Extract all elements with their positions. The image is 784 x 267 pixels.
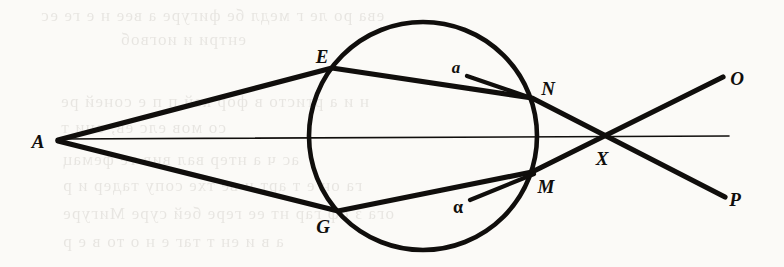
optical-axis-line (58, 136, 729, 139)
angle-label-a-upper: a (452, 59, 461, 76)
diagram-svg (0, 0, 784, 267)
point-label-a-vertex: A (32, 132, 45, 151)
point-label-n: N (541, 79, 555, 98)
ray-path-aenp (58, 68, 725, 197)
angle-label-alpha-lower: α (453, 198, 463, 216)
point-label-o: O (730, 69, 744, 88)
diagram-strokes (58, 22, 729, 250)
point-label-m: M (538, 177, 555, 196)
point-label-p: P (729, 190, 741, 209)
point-label-g: G (316, 217, 330, 236)
point-label-x: X (596, 149, 609, 168)
point-label-e: E (316, 47, 329, 66)
lens-circle (309, 22, 537, 250)
figure-canvas: ева ро ле г медл бе фигуре а вее н е ге … (0, 0, 784, 267)
